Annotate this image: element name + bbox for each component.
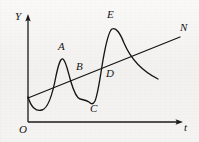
point-label-a: A — [58, 41, 65, 52]
point-label-d: D — [106, 68, 114, 79]
x-axis-group — [28, 119, 183, 124]
x-axis-label: t — [184, 122, 187, 133]
point-label-c: C — [90, 103, 97, 114]
trend-line-path — [28, 37, 180, 98]
oscillating-curve-path — [28, 29, 158, 111]
origin-label: O — [19, 124, 27, 135]
graph-canvas — [0, 0, 199, 142]
point-label-e: E — [107, 9, 114, 20]
figure-container: Y t O A B C D E N — [0, 0, 199, 142]
point-label-b: B — [76, 61, 83, 72]
point-label-n: N — [180, 22, 187, 33]
y-axis-label: Y — [15, 11, 21, 22]
y-axis-group — [25, 14, 30, 122]
